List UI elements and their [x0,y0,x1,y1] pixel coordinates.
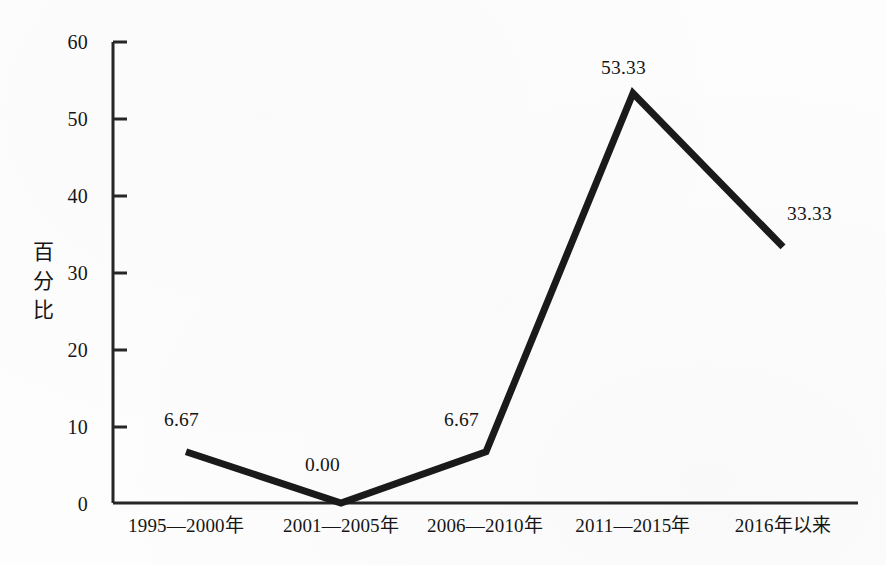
data-label-2011-2015: 53.33 [601,58,646,78]
line-chart-figure: 百 分 比 60 50 40 30 20 10 0 6.67 0.00 6.67… [0,0,886,565]
x-category-label-4: 2011—2015年 [553,516,713,535]
data-label-2006-2010: 6.67 [444,410,479,430]
data-label-1995-2000: 6.67 [164,410,199,430]
plot-area [0,0,886,565]
x-category-label-5: 2016年以来 [713,516,853,535]
data-series-line [186,93,783,503]
data-label-2001-2005: 0.00 [305,455,340,475]
y-axis-ticks [113,42,127,427]
x-category-label-3: 2006—2010年 [405,516,565,535]
data-label-2016-onward: 33.33 [787,204,832,224]
x-category-label-1: 1995—2000年 [106,516,266,535]
x-category-label-2: 2001—2005年 [261,516,421,535]
